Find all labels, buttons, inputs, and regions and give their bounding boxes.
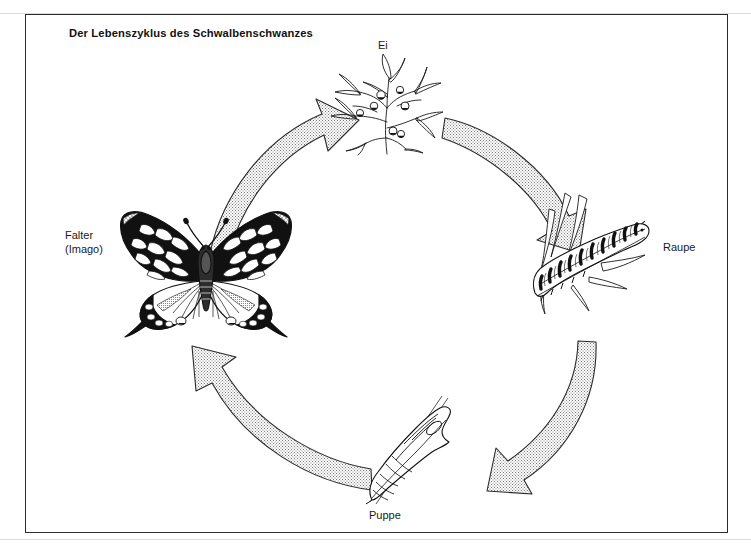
- figure-frame: Der Lebenszyklus des Schwalbenschwanzes …: [25, 14, 728, 533]
- stage-illustration-raupe: [521, 185, 666, 315]
- stage-illustration-puppe: [346, 390, 471, 505]
- stage-label-raupe: Raupe: [663, 240, 695, 254]
- stage-illustration-falter: [111, 195, 301, 340]
- figure-title: Der Lebenszyklus des Schwalbenschwanzes: [69, 27, 313, 39]
- stage-label-falter-line2: (Imago): [65, 242, 103, 256]
- stage-label-falter: Falter (Imago): [65, 228, 103, 256]
- stage-label-falter-line1: Falter: [65, 228, 103, 242]
- scan-artifact-bottom: [0, 539, 751, 540]
- stage-illustration-ei: [321, 50, 456, 155]
- figure-page: Der Lebenszyklus des Schwalbenschwanzes …: [0, 0, 751, 547]
- arrow-puppe-to-falter: [174, 335, 374, 500]
- stage-label-puppe: Puppe: [369, 508, 401, 522]
